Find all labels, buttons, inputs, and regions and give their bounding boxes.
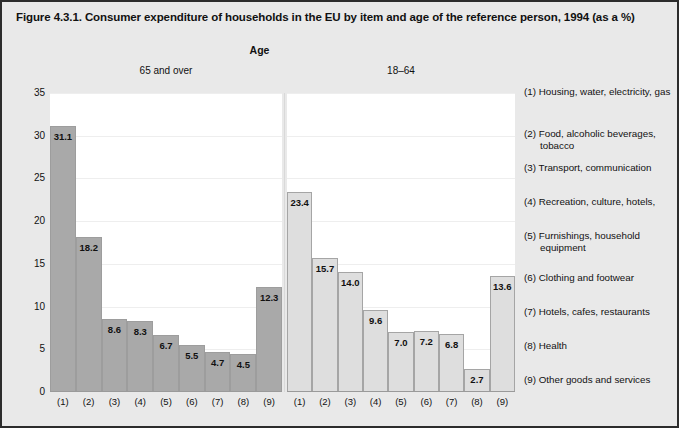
- bar[interactable]: [490, 276, 515, 392]
- bar-value-label: 12.3: [256, 292, 282, 303]
- bar[interactable]: [338, 272, 363, 392]
- x-axis-label: (2): [76, 396, 102, 412]
- panel-divider: [284, 93, 285, 392]
- figure-container: Figure 4.3.1. Consumer expenditure of ho…: [0, 0, 679, 428]
- bar-value-label: 23.4: [287, 197, 312, 208]
- bar-value-label: 7.0: [388, 337, 413, 348]
- x-axis-label: (8): [464, 396, 489, 412]
- y-axis-tick: 25: [34, 173, 45, 183]
- y-axis-tick: 20: [34, 216, 45, 226]
- bar-slot: 7.0: [388, 93, 413, 392]
- legend: (1) Housing, water, electricity, gas(2) …: [524, 86, 674, 406]
- bar[interactable]: [50, 126, 76, 392]
- bar-group-65-and-over: 31.118.28.68.36.75.54.74.512.3: [50, 93, 282, 392]
- x-axis-label: (4): [363, 396, 388, 412]
- bar-value-label: 13.6: [490, 281, 515, 292]
- x-axis-label: (4): [127, 396, 153, 412]
- x-axis-label: (9): [256, 396, 282, 412]
- chart-panel-65-and-over: 31.118.28.68.36.75.54.74.512.3: [50, 93, 282, 392]
- bar-slot: 4.7: [205, 93, 231, 392]
- bar-value-label: 8.3: [127, 326, 153, 337]
- bar-slot: 23.4: [287, 93, 312, 392]
- legend-item: (2) Food, alcoholic beverages, tobacco: [524, 128, 674, 152]
- bar-value-label: 4.7: [205, 357, 231, 368]
- y-axis-tick: 15: [34, 259, 45, 269]
- bar-value-label: 4.5: [230, 359, 256, 370]
- bar-slot: 15.7: [312, 93, 337, 392]
- x-axis-label: (9): [490, 396, 515, 412]
- bar-value-label: 18.2: [76, 242, 102, 253]
- bar-value-label: 31.1: [50, 131, 76, 142]
- bar-value-label: 2.7: [464, 374, 489, 385]
- legend-item: (4) Recreation, culture, hotels,: [524, 196, 674, 208]
- legend-item: (6) Clothing and footwear: [524, 272, 674, 284]
- x-axis-label: (5): [153, 396, 179, 412]
- panel-header-65-and-over: 65 and over: [50, 65, 282, 76]
- legend-item: (9) Other goods and services: [524, 374, 674, 386]
- bar-slot: 5.5: [179, 93, 205, 392]
- y-axis-tick: 30: [34, 131, 45, 141]
- x-axis-label: (7): [439, 396, 464, 412]
- bar-value-label: 6.7: [153, 340, 179, 351]
- x-axis-label: (6): [414, 396, 439, 412]
- bar-slot: 9.6: [363, 93, 388, 392]
- panel-header-18-64: 18–64: [287, 65, 515, 76]
- bar-slot: 12.3: [256, 93, 282, 392]
- x-axis-labels-right: (1)(2)(3)(4)(5)(6)(7)(8)(9): [287, 396, 515, 412]
- bar-value-label: 15.7: [312, 263, 337, 274]
- x-axis-label: (6): [179, 396, 205, 412]
- axis-baseline-right: [287, 391, 515, 392]
- group-header-age: Age: [2, 44, 517, 56]
- legend-item: (1) Housing, water, electricity, gas: [524, 86, 674, 98]
- bar-value-label: 14.0: [338, 277, 363, 288]
- bar[interactable]: [76, 237, 102, 392]
- bar-slot: 8.3: [127, 93, 153, 392]
- x-axis-labels-left: (1)(2)(3)(4)(5)(6)(7)(8)(9): [50, 396, 282, 412]
- x-axis-label: (3): [102, 396, 128, 412]
- axis-baseline-left: [50, 391, 282, 392]
- y-axis-tick: 35: [34, 88, 45, 98]
- x-axis-label: (1): [50, 396, 76, 412]
- bar-value-label: 8.6: [102, 324, 128, 335]
- legend-item: (5) Furnishings, household equipment: [524, 230, 674, 254]
- bar-slot: 18.2: [76, 93, 102, 392]
- legend-item: (3) Transport, communication: [524, 162, 674, 174]
- x-axis-label: (2): [312, 396, 337, 412]
- bar-slot: 7.2: [414, 93, 439, 392]
- x-axis-label: (3): [338, 396, 363, 412]
- bar-slot: 6.7: [153, 93, 179, 392]
- y-axis: 05101520253035: [16, 93, 45, 392]
- bar-value-label: 7.2: [414, 336, 439, 347]
- y-axis-tick: 10: [34, 302, 45, 312]
- y-axis-tick: 5: [39, 344, 45, 354]
- x-axis-label: (8): [230, 396, 256, 412]
- bar[interactable]: [287, 192, 312, 392]
- bar-slot: 14.0: [338, 93, 363, 392]
- bar-slot: 6.8: [439, 93, 464, 392]
- bar-slot: 31.1: [50, 93, 76, 392]
- legend-item: (8) Health: [524, 340, 674, 352]
- bar-slot: 2.7: [464, 93, 489, 392]
- legend-item: (7) Hotels, cafes, restaurants: [524, 306, 674, 318]
- bar-value-label: 9.6: [363, 315, 388, 326]
- x-axis-label: (7): [205, 396, 231, 412]
- figure-title: Figure 4.3.1. Consumer expenditure of ho…: [16, 10, 668, 25]
- bar-slot: 4.5: [230, 93, 256, 392]
- bar-value-label: 5.5: [179, 350, 205, 361]
- x-axis-label: (1): [287, 396, 312, 412]
- y-axis-tick: 0: [39, 387, 45, 397]
- x-axis-label: (5): [388, 396, 413, 412]
- chart-panel-18-64: 23.415.714.09.67.07.26.82.713.6: [287, 93, 515, 392]
- bar-slot: 8.6: [102, 93, 128, 392]
- bar-slot: 13.6: [490, 93, 515, 392]
- bar-value-label: 6.8: [439, 339, 464, 350]
- bar-group-18-64: 23.415.714.09.67.07.26.82.713.6: [287, 93, 515, 392]
- bar[interactable]: [312, 258, 337, 392]
